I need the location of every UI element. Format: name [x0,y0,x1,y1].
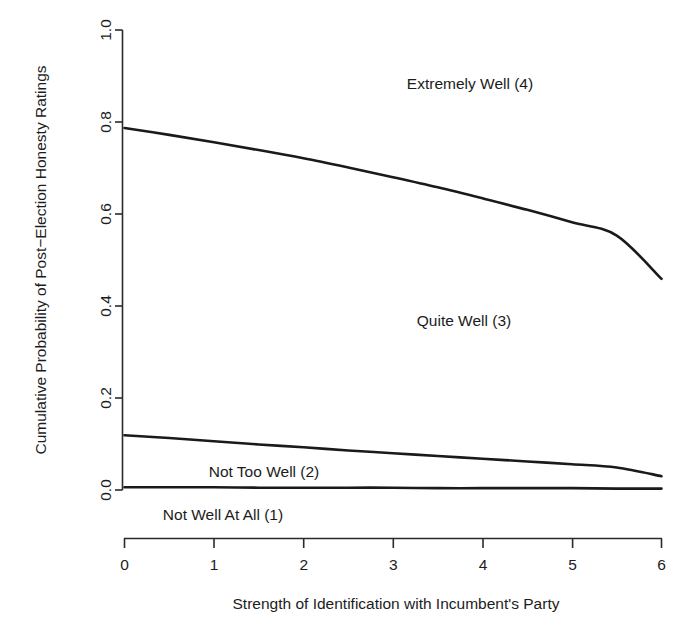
cumulative-probability-plot: 1.0 0.8 0.6 0.4 0.2 0.0 Cumulative Proba… [0,0,696,640]
x-tick-label-3: 3 [389,556,398,573]
label-extremely-well: Extremely Well (4) [407,75,533,92]
label-not-too-well: Not Too Well (2) [209,463,320,480]
chart-figure: 1.0 0.8 0.6 0.4 0.2 0.0 Cumulative Proba… [0,0,696,640]
curve-not-too-well-quite-well-boundary [125,435,662,476]
curve-quite-well-extremely-well-boundary [125,128,662,279]
x-axis: 0 1 2 3 4 5 6 Strength of Identification… [120,539,666,613]
label-not-well-at-all: Not Well At All (1) [163,506,283,523]
x-axis-title: Strength of Identification with Incumben… [233,595,560,612]
curves-group [125,128,662,489]
x-tick-label-4: 4 [479,556,488,573]
y-tick-label-0.2: 0.2 [97,387,114,409]
y-tick-label-0.4: 0.4 [97,295,114,317]
y-axis: 1.0 0.8 0.6 0.4 0.2 0.0 Cumulative Proba… [32,19,123,501]
x-tick-label-0: 0 [120,556,129,573]
y-tick-label-1.0: 1.0 [97,19,114,41]
x-tick-label-5: 5 [568,556,577,573]
y-tick-label-0.0: 0.0 [97,479,114,501]
label-quite-well: Quite Well (3) [417,312,511,329]
x-tick-label-1: 1 [210,556,219,573]
curve-not-well-at-all-not-too-well-boundary [125,487,662,488]
x-tick-label-6: 6 [657,556,666,573]
y-axis-title: Cumulative Probability of Post−Election … [32,65,49,454]
y-tick-label-0.6: 0.6 [97,203,114,225]
x-tick-label-2: 2 [299,556,308,573]
y-tick-label-0.8: 0.8 [97,111,114,133]
